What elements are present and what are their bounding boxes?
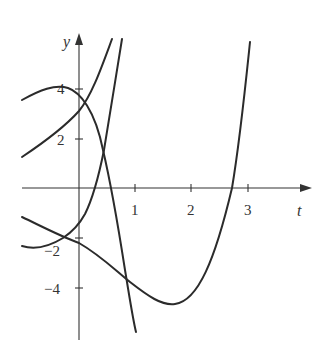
y-tick-label-neg4: −4 xyxy=(44,281,60,297)
y-axis-label: y xyxy=(61,33,71,51)
x-axis-arrow-icon xyxy=(300,184,312,192)
y-axis-arrow-icon xyxy=(75,33,83,45)
x-tick-label-1: 1 xyxy=(131,202,139,218)
curve-c xyxy=(22,39,122,248)
curve-a xyxy=(22,39,112,157)
y-tick-label-2: 2 xyxy=(57,132,65,148)
y-tick-label-4: 4 xyxy=(57,81,65,97)
x-tick-label-2: 2 xyxy=(187,202,195,218)
x-axis-label: t xyxy=(297,202,302,219)
chart: 1 2 3 t 4 2 −2 −4 y xyxy=(0,0,324,343)
x-tick-label-3: 3 xyxy=(244,202,252,218)
